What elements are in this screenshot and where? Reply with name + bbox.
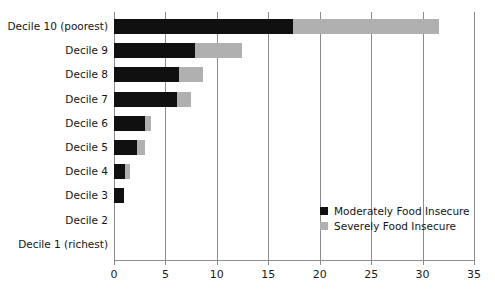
bar-row	[0, 140, 495, 155]
x-tick-label-0: 0	[111, 268, 118, 281]
x-tick-35	[474, 260, 475, 265]
bar-segment-moderate	[114, 140, 137, 155]
x-tick-label-35: 35	[467, 268, 481, 281]
legend-item-severely-food-insecure: Severely Food Insecure	[320, 219, 470, 232]
bar-row	[0, 92, 495, 107]
bar-row	[0, 43, 495, 58]
legend-item-moderately-food-insecure: Moderately Food Insecure	[320, 204, 470, 217]
bar-segment-severe	[293, 19, 439, 34]
bar-segment-severe	[195, 43, 241, 58]
x-tick-label-20: 20	[313, 268, 327, 281]
legend-swatch-icon-moderate	[320, 207, 328, 215]
bar-row	[0, 19, 495, 34]
x-tick-25	[371, 260, 372, 265]
x-tick-label-30: 30	[416, 268, 430, 281]
chart-container: 05101520253035 Decile 10 (poorest)Decile…	[0, 0, 495, 291]
bar-row	[0, 67, 495, 82]
bar-segment-moderate	[114, 164, 125, 179]
bar-segment-severe	[177, 92, 191, 107]
legend-label-moderate: Moderately Food Insecure	[334, 205, 470, 217]
x-tick-label-5: 5	[162, 268, 169, 281]
x-axis-line	[114, 260, 474, 261]
x-tick-label-15: 15	[261, 268, 275, 281]
bar-segment-severe	[137, 140, 145, 155]
legend-swatch-icon-severe	[320, 222, 328, 230]
x-tick-10	[217, 260, 218, 265]
bar-row	[0, 164, 495, 179]
bar-row	[0, 237, 495, 252]
x-tick-15	[268, 260, 269, 265]
bar-segment-moderate	[114, 67, 179, 82]
chart-legend: Moderately Food Insecure Severely Food I…	[320, 204, 470, 234]
bar-row	[0, 188, 495, 203]
bar-row	[0, 116, 495, 131]
x-tick-5	[165, 260, 166, 265]
bar-segment-moderate	[114, 188, 124, 203]
bar-segment-moderate	[114, 43, 195, 58]
bar-segment-moderate	[114, 92, 177, 107]
bar-segment-moderate	[114, 116, 145, 131]
bar-segment-moderate	[114, 19, 293, 34]
x-tick-label-10: 10	[210, 268, 224, 281]
bar-segment-severe	[179, 67, 204, 82]
legend-label-severe: Severely Food Insecure	[334, 220, 456, 232]
bar-segment-severe	[125, 164, 130, 179]
x-tick-20	[320, 260, 321, 265]
x-tick-30	[423, 260, 424, 265]
x-tick-label-25: 25	[364, 268, 378, 281]
x-tick-0	[114, 260, 115, 265]
bar-segment-severe	[145, 116, 151, 131]
